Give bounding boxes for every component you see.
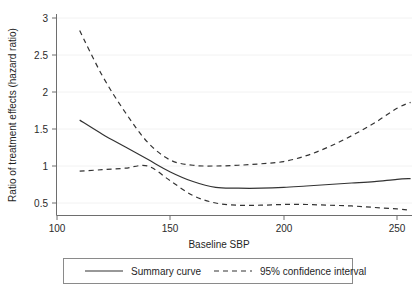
chart-background [0,0,417,295]
y-axis-title: Ratio of treatment effects (hazard ratio… [7,28,18,202]
x-tick-label: 250 [389,223,406,234]
x-axis-title: Baseline SBP [188,239,249,250]
y-tick-label: 2.5 [34,50,48,61]
chart-figure: 3 2.5 2 1.5 1 0.5 100 150 200 250 [0,0,417,295]
x-tick-label: 200 [276,223,293,234]
y-tick-label: 2 [42,87,48,98]
y-tick-label: 3 [42,13,48,24]
y-tick-label: 0.5 [34,198,48,209]
y-tick-label: 1 [42,161,48,172]
x-tick-label: 100 [49,223,66,234]
legend-label-confidence-interval: 95% confidence interval [260,266,366,277]
y-tick-label: 1.5 [34,124,48,135]
chart-svg: 3 2.5 2 1.5 1 0.5 100 150 200 250 [0,0,417,295]
legend-label-summary-curve: Summary curve [131,266,201,277]
x-tick-label: 150 [162,223,179,234]
